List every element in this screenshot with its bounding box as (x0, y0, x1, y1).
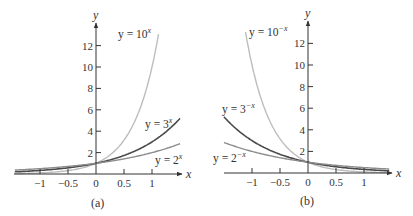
y-tick-label: 12 (294, 37, 305, 49)
curve-y-10-x (246, 32, 390, 173)
y-tick-label: 6 (300, 102, 306, 114)
curve-label-3-neg-x: y = 3−x (222, 101, 255, 116)
x-tick-label: −1 (34, 177, 46, 189)
y-tick-label: 10 (294, 59, 306, 71)
x-tick-label: 0.5 (329, 176, 343, 188)
y-tick-label: 12 (82, 40, 93, 52)
panel-a-x-axis-label: x (185, 167, 192, 181)
x-tick-label: −0.5 (270, 176, 290, 188)
panel-a-y-axis-label: y (92, 8, 99, 22)
y-tick-label: 8 (88, 82, 94, 94)
exponential-graphs-figure: −1−0.500.51 24681012 x y (a) y = 10x y =… (0, 0, 413, 216)
y-tick-label: 10 (82, 61, 94, 73)
x-tick-label: −1 (246, 176, 258, 188)
x-tick-label: 0 (305, 176, 311, 188)
curve-label-10x: y = 10x (118, 26, 152, 41)
curve-label-10-neg-x: y = 10−x (249, 24, 288, 39)
panel-b-y-ticks: 24681012 (294, 37, 313, 157)
curve-y-2-x (224, 143, 389, 170)
panel-a-y-ticks: 24681012 (82, 40, 101, 159)
x-tick-label: 0.5 (117, 177, 131, 189)
panel-a: −1−0.500.51 24681012 x y (a) y = 10x y =… (14, 8, 192, 210)
panel-b: −1−0.500.51 24681012 x y (b) y = 10−x y … (213, 6, 402, 208)
curve-label-2-neg-x: y = 2−x (213, 150, 246, 165)
x-tick-label: 0 (93, 177, 99, 189)
curve-label-2x: y = 2x (155, 152, 183, 167)
y-tick-label: 4 (300, 124, 306, 136)
curve-label-3x: y = 3x (145, 116, 173, 131)
panel-b-x-axis-label: x (395, 166, 402, 180)
curve-y-3-x (224, 117, 389, 171)
x-tick-label: −0.5 (58, 177, 78, 189)
y-tick-label: 8 (300, 81, 306, 93)
panel-b-caption: (b) (300, 194, 314, 208)
panel-a-caption: (a) (91, 196, 104, 210)
y-tick-label: 2 (88, 147, 94, 159)
y-tick-label: 4 (88, 125, 94, 137)
x-tick-label: 1 (361, 176, 367, 188)
y-tick-label: 2 (300, 145, 306, 157)
y-tick-label: 6 (88, 104, 94, 116)
panel-b-y-axis-label: y (304, 6, 311, 20)
x-tick-label: 1 (149, 177, 155, 189)
